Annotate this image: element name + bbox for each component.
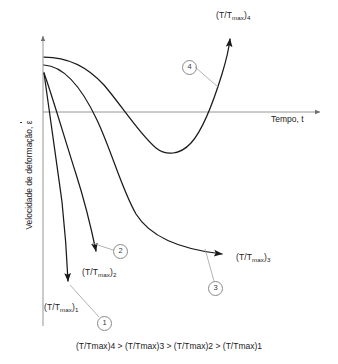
callout-4[interactable]: 4 <box>182 60 197 75</box>
curve-3 <box>44 65 222 254</box>
curve-label-2: (T/Tmax)2 <box>82 268 116 277</box>
curve-1 <box>44 73 68 281</box>
callout-leader-lines <box>70 67 218 317</box>
epsilon-symbol: ε <box>24 120 34 124</box>
figure-caption: (T/Tmax)4 > (T/Tmax)3 > (T/Tmax)2 > (T/T… <box>0 341 338 351</box>
callout-1[interactable]: 1 <box>97 316 112 331</box>
curve-label-3: (T/Tmax)3 <box>236 253 270 262</box>
caption-term-4: (T/Tmax)4 <box>76 341 115 351</box>
caption-gt-1: > <box>118 341 123 351</box>
leader-line-4 <box>195 67 218 87</box>
callout-3[interactable]: 3 <box>208 281 223 296</box>
dot-accent-icon <box>20 122 22 124</box>
caption-term-3: (T/Tmax)3 <box>125 341 164 351</box>
y-axis-label-text: Velocidade de deformação, <box>24 124 34 229</box>
curve-4 <box>44 39 230 153</box>
curve-label-1: (T/Tmax)1 <box>44 303 78 312</box>
caption-term-1: (T/Tmax)1 <box>223 341 262 351</box>
creep-rate-diagram: Velocidade de deformação, ε Tempo, t (T/… <box>0 0 338 364</box>
x-axis-label: Tempo, t <box>271 114 304 124</box>
y-axis-label: Velocidade de deformação, ε <box>24 100 34 250</box>
caption-term-2: (T/Tmax)2 <box>174 341 213 351</box>
caption-gt-2: > <box>167 341 172 351</box>
curve-label-4: (T/Tmax)4 <box>216 11 250 20</box>
callout-2[interactable]: 2 <box>113 244 128 259</box>
axis-group <box>43 36 320 326</box>
leader-line-3 <box>205 249 214 281</box>
epsilon-dot-symbol: ε <box>24 120 34 124</box>
caption-gt-3: > <box>215 341 220 351</box>
curve-2 <box>44 73 96 251</box>
